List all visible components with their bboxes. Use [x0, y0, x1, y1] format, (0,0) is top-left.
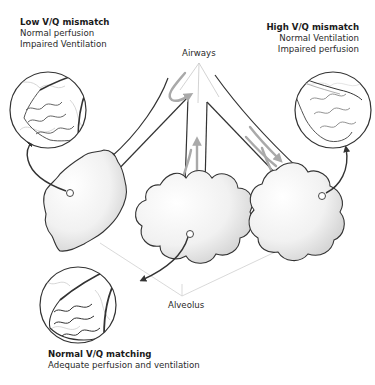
- normal-vq-line1: Adequate perfusion and ventilation: [48, 360, 200, 371]
- low-vq-caption: Low V/Q mismatch Normal perfusion Impair…: [20, 17, 110, 50]
- airways-label: Airways: [182, 48, 216, 58]
- inset-low-vq: [10, 70, 92, 148]
- high-vq-caption: High V/Q mismatch Normal Ventilation Imp…: [266, 22, 359, 55]
- alveolus-label: Alveolus: [168, 300, 204, 310]
- high-vq-title: High V/Q mismatch: [266, 22, 359, 33]
- inset-normal-vq: [40, 267, 118, 343]
- alveolus-left: [27, 142, 126, 251]
- high-vq-line1: Normal Ventilation: [266, 33, 359, 44]
- normal-vq-caption: Normal V/Q matching Adequate perfusion a…: [48, 349, 200, 371]
- normal-vq-title: Normal V/Q matching: [48, 349, 200, 360]
- low-vq-line2: Impaired Ventilation: [20, 39, 110, 50]
- low-vq-title: Low V/Q mismatch: [20, 17, 110, 28]
- alveolus-right: [249, 148, 347, 261]
- inset-high-vq: [288, 72, 371, 148]
- alveolus-center: [136, 171, 253, 281]
- high-vq-line2: Impaired perfusion: [266, 44, 359, 55]
- low-vq-line1: Normal perfusion: [20, 28, 110, 39]
